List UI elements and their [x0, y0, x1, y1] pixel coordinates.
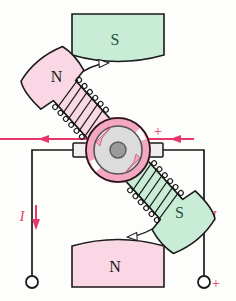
- current-arrow-left-wire: I: [19, 205, 40, 230]
- stator-bottom-pole: N: [72, 240, 164, 288]
- stator-top-pole-label: S: [111, 31, 120, 48]
- stator-bottom-pole-label: N: [109, 258, 121, 275]
- commutator: [86, 118, 150, 182]
- terminal-right-plus-label: +: [212, 276, 220, 291]
- current-arrow-left-head: [32, 219, 40, 230]
- motor-diagram-figure: S N + I I: [0, 0, 236, 301]
- terminal-left[interactable]: [26, 276, 38, 288]
- current-arrow-right-brush-head: [170, 135, 181, 143]
- stator-top-pole: S: [72, 14, 164, 62]
- terminal-right[interactable]: [198, 276, 210, 288]
- rotor-upper-arm-label: N: [51, 68, 63, 85]
- rotor-lower-arm-label: S: [175, 204, 184, 221]
- left-lead-wire: [32, 150, 75, 275]
- current-label-left: I: [19, 209, 26, 224]
- diagram-canvas: S N + I I: [0, 0, 236, 301]
- commutator-shaft-hub: [110, 142, 126, 158]
- brush-plus-label: +: [154, 123, 162, 139]
